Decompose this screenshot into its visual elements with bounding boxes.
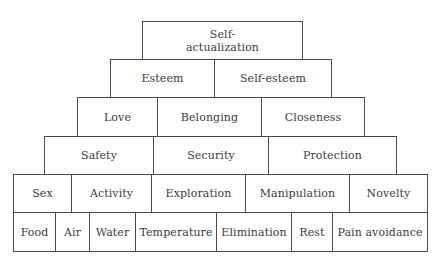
- node-novelty: Novelty: [349, 174, 428, 213]
- node-pain-avoidance: Pain avoidance: [332, 212, 428, 252]
- node-love: Love: [77, 97, 158, 137]
- node-label: Rest: [299, 226, 324, 239]
- node-label: Safety: [81, 149, 117, 162]
- node-security: Security: [153, 136, 269, 175]
- pyramid-level-2: Esteem Self-esteem: [110, 59, 331, 98]
- node-label: Elimination: [221, 226, 286, 239]
- node-label: Sex: [32, 187, 53, 200]
- pyramid-level-4: Safety Security Protection: [44, 136, 396, 175]
- node-safety: Safety: [44, 136, 154, 175]
- node-label: Esteem: [141, 72, 183, 85]
- node-label: Exploration: [166, 187, 232, 200]
- node-label-line-2: actualization: [186, 41, 259, 54]
- node-self-esteem: Self-esteem: [214, 59, 332, 98]
- node-water: Water: [89, 212, 136, 252]
- node-label: Closeness: [285, 111, 342, 124]
- node-protection: Protection: [268, 136, 397, 175]
- node-label-line-1: Self-: [210, 28, 235, 41]
- node-elimination: Elimination: [216, 212, 292, 252]
- node-label: Temperature: [139, 226, 212, 239]
- node-label: Activity: [90, 187, 133, 200]
- pyramid-level-3: Love Belonging Closeness: [77, 97, 364, 137]
- node-label: Belonging: [181, 111, 238, 124]
- node-closeness: Closeness: [261, 97, 365, 137]
- node-label: Manipulation: [260, 187, 335, 200]
- node-belonging: Belonging: [157, 97, 262, 137]
- node-label: Novelty: [367, 187, 411, 200]
- pyramid-level-1: Self- actualization: [142, 21, 302, 60]
- node-exploration: Exploration: [151, 174, 246, 213]
- pyramid-level-5: Sex Activity Exploration Manipulation No…: [13, 174, 427, 213]
- node-esteem: Esteem: [110, 59, 215, 98]
- node-label: Protection: [303, 149, 362, 162]
- pyramid-level-6: Food Air Water Temperature Elimination R…: [13, 212, 427, 252]
- node-self-actualization: Self- actualization: [142, 21, 303, 60]
- node-sex: Sex: [13, 174, 72, 213]
- node-label: Pain avoidance: [337, 226, 422, 239]
- node-label: Water: [96, 226, 130, 239]
- node-activity: Activity: [71, 174, 152, 213]
- needs-pyramid: Self- actualization Esteem Self-esteem L…: [0, 0, 442, 270]
- node-label: Air: [64, 226, 81, 239]
- node-label: Security: [187, 149, 235, 162]
- node-label: Love: [104, 111, 131, 124]
- node-rest: Rest: [291, 212, 333, 252]
- node-manipulation: Manipulation: [245, 174, 350, 213]
- node-food: Food: [13, 212, 56, 252]
- node-temperature: Temperature: [135, 212, 217, 252]
- node-label: Self-esteem: [240, 72, 306, 85]
- node-label: Food: [21, 226, 49, 239]
- node-air: Air: [55, 212, 90, 252]
